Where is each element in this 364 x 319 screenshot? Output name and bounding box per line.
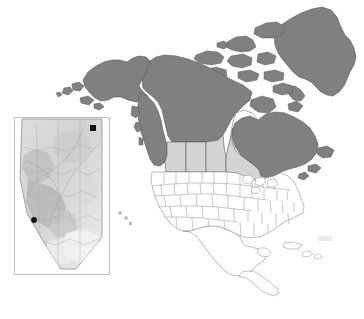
region-caribbean [283,242,322,259]
alberta-inset-map-svg [14,117,110,275]
marker-northeast[interactable] [90,125,96,131]
marker-southwest[interactable] [31,217,37,223]
region-united-states [151,172,304,238]
alberta-inset-map [14,117,110,275]
pacific-islands [118,211,132,225]
region-alaska [56,56,150,110]
map-figure [0,0,364,319]
faint-artifact [318,236,332,241]
region-mexico-central-america [183,226,279,296]
